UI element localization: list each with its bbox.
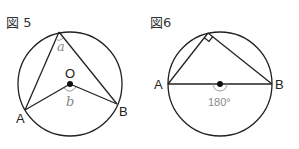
- figure-6-chord-top-b: [208, 33, 272, 84]
- figure-5-center-label: O: [65, 66, 75, 81]
- figure-6-right-angle-marker: [204, 37, 212, 42]
- figure-6-title: 図6: [150, 15, 171, 30]
- figure-5-chord-top-a: [25, 32, 59, 110]
- figure-5-center-dot: [67, 81, 73, 87]
- figure-5-angle-b-arc: [64, 87, 76, 91]
- diagram-canvas: 図 5 a b O A B 図6 180° A B: [0, 0, 299, 149]
- figure-5-radius-oa: [25, 84, 70, 110]
- figure-6-angle-180-label: 180°: [208, 96, 231, 108]
- figure-5-angle-a-label: a: [57, 39, 65, 54]
- figure-5-radius-ob: [70, 84, 117, 104]
- figure-6: 図6 180° A B: [150, 15, 284, 136]
- figure-5: 図 5 a b O A B: [6, 15, 128, 136]
- figure-6-point-b-label: B: [275, 77, 284, 92]
- figure-6-point-a-label: A: [154, 77, 163, 92]
- figure-5-point-a-label: A: [16, 111, 25, 126]
- figure-5-title: 図 5: [6, 15, 31, 30]
- figure-5-angle-b-label: b: [66, 94, 74, 109]
- figure-5-point-b-label: B: [119, 104, 128, 119]
- figure-6-center-dot: [217, 81, 223, 87]
